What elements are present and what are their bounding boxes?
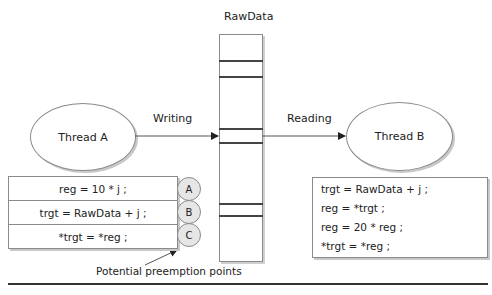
preemption-caption: Potential preemption points xyxy=(96,265,242,277)
code-line: *trgt = *reg ; xyxy=(313,236,487,255)
marker-label: B xyxy=(186,207,193,218)
code-line: reg = *trgt ; xyxy=(313,198,487,217)
marker-label: A xyxy=(186,184,193,195)
thread-b-code-box: trgt = RawData + j ; reg = *trgt ; reg =… xyxy=(312,177,488,258)
writing-label: Writing xyxy=(153,112,192,125)
preemption-marker-a: A xyxy=(177,177,201,201)
marker-label: C xyxy=(186,230,193,241)
reading-label: Reading xyxy=(287,112,332,125)
code-line: trgt = RawData + j ; xyxy=(9,201,177,225)
code-line: trgt = RawData + j ; xyxy=(313,179,487,198)
bottom-divider xyxy=(8,283,488,285)
thread-a-code-box: reg = 10 * j ; trgt = RawData + j ; *trg… xyxy=(8,176,178,249)
preemption-marker-b: B xyxy=(177,200,201,224)
code-line: reg = 20 * reg ; xyxy=(313,217,487,236)
preemption-marker-c: C xyxy=(177,223,201,247)
code-line: *trgt = *reg ; xyxy=(9,225,177,248)
code-line: reg = 10 * j ; xyxy=(9,177,177,201)
